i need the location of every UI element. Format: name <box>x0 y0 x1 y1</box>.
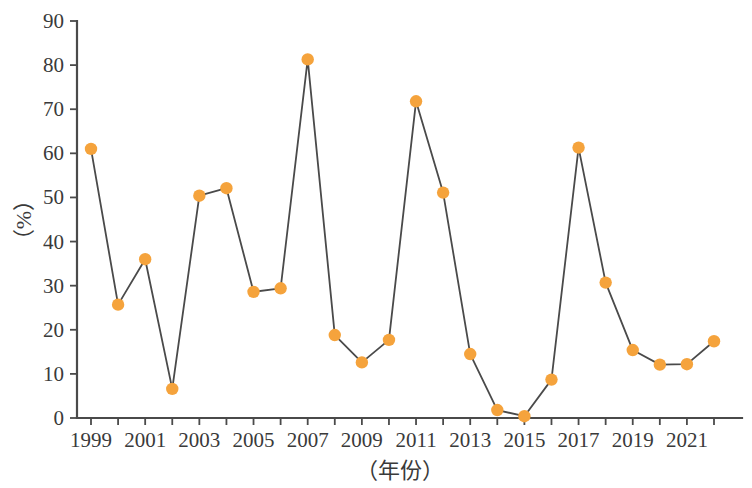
data-point-marker <box>654 358 666 370</box>
data-point-marker <box>166 383 178 395</box>
data-line-group <box>91 59 714 416</box>
y-axis-title: （%） <box>6 178 46 262</box>
y-tick-label: 30 <box>43 274 64 298</box>
data-point-marker <box>708 335 720 347</box>
y-tick-label: 40 <box>43 230 64 254</box>
y-tick-label: 10 <box>43 362 64 386</box>
data-line <box>91 59 714 416</box>
x-tick-label: 2015 <box>503 428 545 452</box>
data-point-marker <box>572 141 584 153</box>
data-point-marker <box>491 404 503 416</box>
data-point-marker <box>599 276 611 288</box>
y-tick-label: 90 <box>43 9 64 33</box>
data-point-marker <box>112 298 124 310</box>
data-point-marker <box>437 186 449 198</box>
data-point-marker <box>545 373 557 385</box>
y-axis-title-svg: （%） <box>6 178 46 262</box>
x-tick-label: 1999 <box>70 428 112 452</box>
x-tick-label: 2005 <box>233 428 275 452</box>
data-point-marker <box>220 182 232 194</box>
x-tick-label: 2007 <box>287 428 329 452</box>
data-point-marker <box>302 53 314 65</box>
data-point-marker <box>518 410 530 422</box>
x-tick-label: 2017 <box>558 428 600 452</box>
data-point-marker <box>383 334 395 346</box>
y-tick-label: 70 <box>43 97 64 121</box>
y-axis-tick-labels: 0102030405060708090 <box>43 9 64 430</box>
x-tick-label: 2001 <box>124 428 166 452</box>
x-tick-label: 2011 <box>395 428 436 452</box>
data-markers-group <box>85 53 720 422</box>
y-axis-title-text: （%） <box>11 189 36 251</box>
data-point-marker <box>247 286 259 298</box>
data-point-marker <box>681 358 693 370</box>
data-point-marker <box>627 344 639 356</box>
data-point-marker <box>274 282 286 294</box>
y-tick-label: 20 <box>43 318 64 342</box>
x-axis-tick-labels: 1999200120032005200720092011201320152017… <box>70 428 708 452</box>
line-chart: 0102030405060708090 19992001200320052007… <box>0 0 752 488</box>
y-tick-label: 60 <box>43 141 64 165</box>
y-tick-label: 0 <box>54 406 65 430</box>
data-point-marker <box>329 329 341 341</box>
x-tick-label: 2003 <box>178 428 220 452</box>
x-tick-label: 2019 <box>612 428 654 452</box>
data-point-marker <box>464 348 476 360</box>
x-tick-label: 2013 <box>449 428 491 452</box>
chart-svg: 0102030405060708090 19992001200320052007… <box>0 0 752 488</box>
data-point-marker <box>193 189 205 201</box>
x-tick-label: 2021 <box>666 428 708 452</box>
x-tick-label: 2009 <box>341 428 383 452</box>
y-tick-label: 80 <box>43 53 64 77</box>
y-tick-label: 50 <box>43 185 64 209</box>
data-point-marker <box>85 143 97 155</box>
data-point-marker <box>139 253 151 265</box>
data-point-marker <box>356 356 368 368</box>
x-axis-title: （年份） <box>356 458 444 483</box>
data-point-marker <box>410 95 422 107</box>
